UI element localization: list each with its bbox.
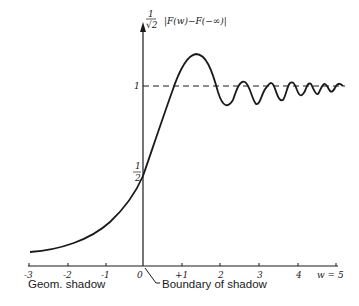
- y-tick-1: 1: [134, 81, 140, 91]
- y-label-frac-den: √2: [146, 20, 158, 30]
- x-tick-w5: w = 5: [317, 270, 344, 280]
- x-tick-0: 0: [137, 270, 143, 280]
- y-label-frac-num: 1: [148, 9, 154, 19]
- boundary-of-shadow-label: Boundary of shadow: [162, 278, 268, 290]
- geom-shadow-label: Geom. shadow: [28, 278, 106, 290]
- diffraction-curve: [30, 54, 343, 252]
- x-tick-4: 4: [295, 270, 302, 280]
- y-axis-label: |F(w)−F(−∞)|: [164, 16, 227, 27]
- y-tick-half-num: 1: [135, 161, 141, 171]
- diffraction-diagram: -3 -2 -1 0 +1 2 3 4 w = 5 1 √2 |F(w)−F(−…: [0, 0, 359, 306]
- boundary-leader: [145, 268, 156, 283]
